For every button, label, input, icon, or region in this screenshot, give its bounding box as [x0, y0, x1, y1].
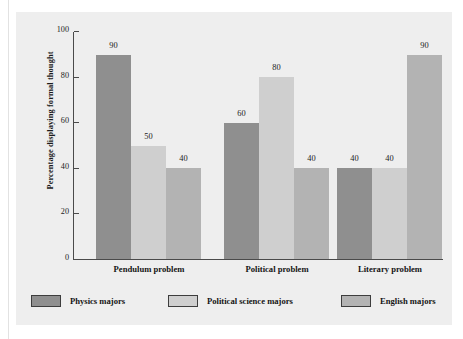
legend-swatch-physics-majors	[31, 295, 61, 307]
bar-slot-political-science: 50	[131, 32, 166, 259]
bar-literary-political-science[interactable]: 40	[372, 168, 407, 259]
x-axis-line	[73, 259, 443, 260]
bar-slot-physics: 40	[337, 32, 372, 259]
bar-value-literary-political-science: 40	[385, 154, 393, 163]
y-tick-label-0: 0	[65, 253, 69, 262]
legend-swatch-english-majors	[341, 295, 371, 307]
bar-pendulum-physics[interactable]: 90	[96, 55, 131, 259]
bar-political-political-science[interactable]: 80	[259, 77, 294, 259]
bar-group-literary-problem: 40 40 90	[337, 32, 442, 259]
bar-group-pendulum-problem: 90 50 40	[96, 32, 201, 259]
bar-political-physics[interactable]: 60	[224, 123, 259, 259]
x-label-political-problem: Political problem	[245, 264, 308, 274]
y-tick-label-20: 20	[61, 207, 69, 216]
legend-item-english-majors[interactable]: English majors	[341, 295, 436, 307]
bar-literary-physics[interactable]: 40	[337, 168, 372, 259]
bar-slot-physics: 90	[96, 32, 131, 259]
y-axis-title: Percentage displaying formal thought	[46, 31, 55, 211]
legend-item-physics-majors[interactable]: Physics majors	[31, 295, 125, 307]
y-tick-label-100: 100	[57, 25, 69, 34]
page-scan-line	[8, 0, 9, 339]
bar-value-pendulum-english: 40	[179, 154, 187, 163]
legend-swatch-political-science-majors	[168, 295, 198, 307]
y-tick-label-60: 60	[61, 116, 69, 125]
bar-political-english[interactable]: 40	[294, 168, 329, 259]
bar-slot-physics: 60	[224, 32, 259, 259]
plot-area: Percentage displaying formal thought 0 2…	[16, 12, 452, 270]
bar-slot-political-science: 40	[372, 32, 407, 259]
bar-pendulum-english[interactable]: 40	[166, 168, 201, 259]
legend: Physics majors Political science majors …	[16, 295, 452, 317]
y-tick-label-40: 40	[61, 162, 69, 171]
x-axis-category-labels: Pendulum problem Political problem Liter…	[74, 264, 444, 284]
bar-value-political-english: 40	[307, 154, 315, 163]
legend-label-physics-majors: Physics majors	[70, 296, 125, 306]
axes: 0 20 40 60 80 100	[73, 32, 443, 260]
y-tick-label-80: 80	[61, 71, 69, 80]
bar-value-pendulum-physics: 90	[109, 41, 117, 50]
legend-item-political-science-majors[interactable]: Political science majors	[168, 295, 293, 307]
bar-slot-english: 90	[407, 32, 442, 259]
bar-group-political-problem: 60 80 40	[224, 32, 329, 259]
bar-value-political-physics: 60	[237, 109, 245, 118]
bar-pendulum-political-science[interactable]: 50	[131, 146, 166, 260]
x-label-pendulum-problem: Pendulum problem	[114, 264, 185, 274]
x-label-literary-problem: Literary problem	[358, 264, 422, 274]
bar-value-political-political-science: 80	[272, 63, 280, 72]
bar-slot-english: 40	[166, 32, 201, 259]
legend-label-english-majors: English majors	[380, 296, 436, 306]
bar-value-pendulum-political-science: 50	[144, 132, 152, 141]
bars-layer: 90 50 40	[74, 32, 443, 259]
bar-slot-political-science: 80	[259, 32, 294, 259]
y-tick-0: 0	[73, 259, 79, 260]
bar-literary-english[interactable]: 90	[407, 55, 442, 259]
legend-label-political-science-majors: Political science majors	[207, 296, 293, 306]
bar-value-literary-physics: 40	[350, 154, 358, 163]
figure-panel: Percentage displaying formal thought 0 2…	[16, 12, 452, 325]
bar-slot-english: 40	[294, 32, 329, 259]
bar-value-literary-english: 90	[420, 41, 428, 50]
